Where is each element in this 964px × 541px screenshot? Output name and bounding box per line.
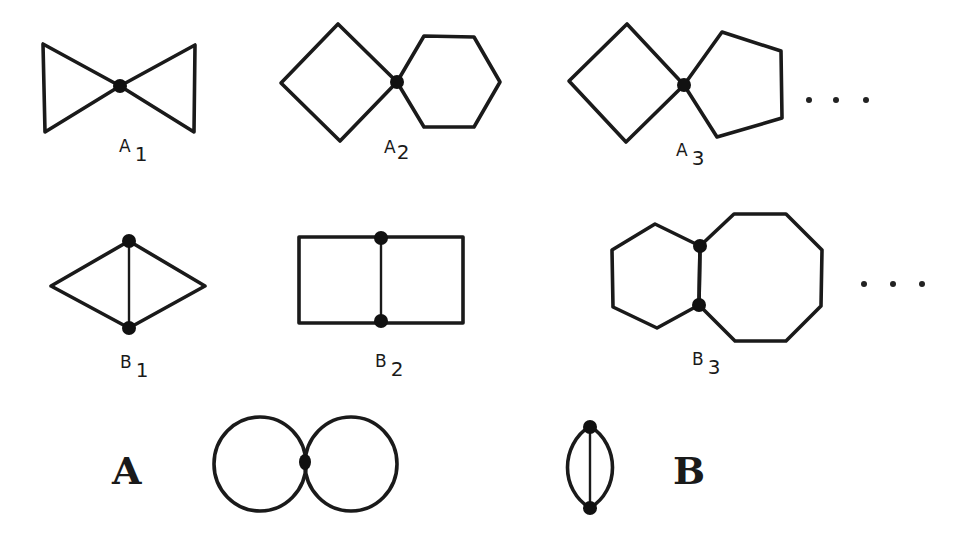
label-limit-a: A: [112, 452, 141, 490]
graph-b2: [299, 231, 463, 328]
graph-a3: [569, 24, 782, 142]
label-b2: B2: [375, 350, 403, 370]
label-a1: A1: [119, 135, 147, 155]
cut-vertex-a3: [677, 78, 691, 92]
graph-a1: [43, 44, 195, 132]
label-limit-b: B: [673, 452, 705, 490]
graph-limit-b: [568, 420, 613, 515]
label-a3: A3: [676, 139, 704, 159]
label-b3: B3: [692, 348, 720, 368]
ellipsis-row-a: [806, 97, 869, 103]
cut-vertex-a2: [390, 75, 404, 89]
label-a2: A2: [384, 136, 409, 156]
graph-a2: [281, 24, 500, 141]
figure-canvas: [0, 0, 964, 541]
cut-vertex-a1: [113, 79, 127, 93]
graph-b1: [51, 234, 205, 335]
ellipsis-row-b: [861, 281, 925, 287]
graph-b3: [612, 214, 822, 341]
label-b1: B1: [120, 351, 148, 371]
graph-limit-a: [214, 417, 397, 511]
